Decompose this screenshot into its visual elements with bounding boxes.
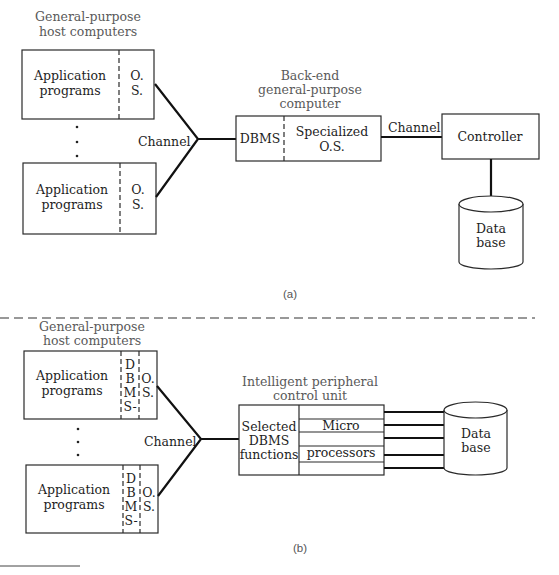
app-label: Application [35, 368, 108, 383]
database-architecture-diagram: General-purpose host computers Applicati… [0, 0, 559, 575]
database-label-2: base [476, 235, 505, 250]
app-label-2: programs [43, 497, 104, 512]
control-unit-caption-2: control unit [273, 388, 347, 403]
figure-b-label: (b) [293, 542, 307, 554]
app-label-2: programs [41, 383, 102, 398]
figure-a-label: (a) [283, 288, 297, 300]
backend-caption-2: general-purpose [258, 82, 362, 97]
hosts-caption-a-2: host computers [39, 24, 137, 39]
micro-label: Micro [322, 418, 359, 433]
backend-computer: DBMS Specialized O.S. [236, 116, 381, 161]
dbms-letter: S- [124, 513, 137, 528]
host-computer-b-bottom: Application programs D B M S- O. S. [26, 465, 158, 533]
backend-dbms-label: DBMS [240, 131, 281, 146]
dbms-letter: B [125, 371, 134, 386]
control-unit-caption: Intelligent peripheral [242, 374, 378, 389]
os-label: O. [141, 371, 155, 386]
app-label-2: programs [39, 83, 100, 98]
dbms-letter: S- [123, 399, 136, 414]
app-label: Application [37, 482, 110, 497]
database-cylinder-a: Data base [459, 196, 523, 269]
controller-box: Controller [442, 114, 539, 159]
processor-db-links [384, 412, 445, 468]
dbms-letter: M [125, 499, 138, 514]
os-label-2: S. [143, 499, 155, 514]
host-computer-b-top: Application programs D B M S- O. S. [24, 351, 157, 419]
dbms-letter: B [126, 485, 135, 500]
channel-label-b: Channel [144, 434, 197, 449]
database-label: Data [476, 221, 506, 236]
os-label-2: S. [142, 385, 154, 400]
hosts-caption-b: General-purpose [39, 319, 145, 334]
database-cylinder-b: Data base [444, 402, 507, 475]
channel-label-a: Channel [138, 134, 191, 149]
os-label-2: S. [131, 83, 143, 98]
figure-b: General-purpose host computers Applicati… [24, 319, 507, 554]
host-computer-a-bottom: Application programs O. S. [23, 163, 156, 234]
channel-label-2: Channel [388, 120, 441, 135]
selected-dbms-label-3: functions [240, 447, 299, 462]
figure-a: General-purpose host computers Applicati… [22, 9, 539, 300]
ellipsis-dots-b [77, 428, 80, 457]
controller-label: Controller [457, 129, 522, 144]
os-label: O. [142, 485, 156, 500]
intelligent-control-unit: Selected DBMS functions Micro processors [239, 405, 384, 475]
hosts-caption-a: General-purpose [35, 9, 141, 24]
os-label-2: S. [132, 197, 144, 212]
backend-caption-3: computer [280, 96, 341, 111]
processors-label: processors [307, 445, 376, 460]
app-label: Application [35, 182, 108, 197]
selected-dbms-label-2: DBMS [249, 433, 290, 448]
os-label: O. [131, 182, 145, 197]
os-label: O. [130, 68, 144, 83]
specialized-os-label: Specialized [296, 124, 368, 139]
selected-dbms-label: Selected [242, 419, 297, 434]
specialized-os-label-2: O.S. [319, 139, 345, 154]
hosts-caption-b-2: host computers [43, 333, 141, 348]
host-computer-a-top: Application programs O. S. [22, 50, 154, 119]
dbms-letter: D [125, 357, 135, 372]
database-label: Data [461, 426, 491, 441]
dbms-letter: D [126, 471, 136, 486]
app-label-2: programs [41, 197, 102, 212]
app-label: Application [33, 68, 106, 83]
database-label-2: base [461, 440, 490, 455]
ellipsis-dots-a [76, 126, 79, 158]
backend-caption: Back-end [281, 68, 340, 83]
dbms-letter: M [124, 385, 137, 400]
